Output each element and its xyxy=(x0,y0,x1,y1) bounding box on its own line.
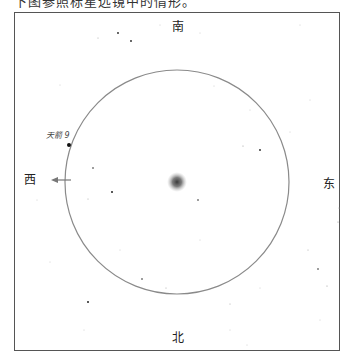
field-star xyxy=(230,304,231,305)
field-star xyxy=(250,110,251,111)
field-star xyxy=(197,199,199,201)
field-star xyxy=(92,167,94,169)
field-star xyxy=(117,32,119,34)
target-object-glow xyxy=(167,172,187,192)
field-stars xyxy=(37,25,340,346)
field-star xyxy=(326,285,327,286)
compass-east-label: 东 xyxy=(323,178,335,190)
labeled-star-dot xyxy=(67,143,71,147)
field-star xyxy=(111,191,113,193)
field-star xyxy=(337,221,338,222)
field-star xyxy=(88,199,89,200)
field-star xyxy=(37,200,38,201)
field-star xyxy=(87,301,89,303)
field-star xyxy=(60,85,61,86)
field-star xyxy=(260,288,261,289)
field-star xyxy=(317,268,319,270)
compass-north-label: 北 xyxy=(172,332,184,344)
field-star xyxy=(339,208,340,209)
field-star xyxy=(310,100,311,101)
field-star xyxy=(50,262,51,263)
field-star xyxy=(247,345,248,346)
field-star xyxy=(200,240,201,241)
field-star xyxy=(214,86,215,87)
field-star xyxy=(84,330,85,331)
star-chart xyxy=(0,0,352,360)
field-star xyxy=(242,145,243,146)
field-star xyxy=(98,38,99,39)
compass-west-label: 西 xyxy=(24,174,36,186)
field-star xyxy=(320,320,321,321)
field-star xyxy=(141,278,143,280)
west-arrow-icon xyxy=(51,177,71,183)
field-star xyxy=(259,149,261,151)
field-star xyxy=(130,40,132,42)
field-star xyxy=(200,33,201,34)
field-star xyxy=(166,288,167,289)
field-star xyxy=(230,330,231,331)
field-star xyxy=(300,25,301,26)
compass-south-label: 南 xyxy=(172,21,184,33)
field-star xyxy=(290,132,291,133)
field-star xyxy=(160,25,161,26)
field-star xyxy=(120,250,121,251)
field-star xyxy=(308,250,309,251)
labeled-star-name: 天箭 9 xyxy=(46,129,70,140)
